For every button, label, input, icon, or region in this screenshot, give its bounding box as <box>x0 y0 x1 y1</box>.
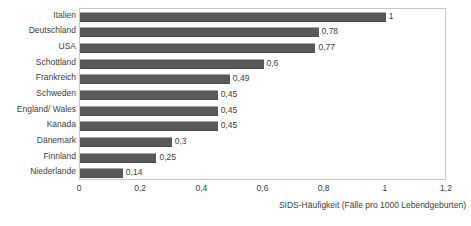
category-label: Finnland <box>0 151 76 161</box>
bar <box>80 59 264 69</box>
bar-value-label: 0,3 <box>172 136 187 147</box>
bar-value-label: 1 <box>386 11 394 22</box>
bar-row: 0,45 <box>80 121 447 131</box>
plot-area: 10,780,770,60,490,450,450,450,30,250,14 <box>79 8 446 180</box>
bar <box>80 106 218 116</box>
bar-row: 0,78 <box>80 27 447 37</box>
bar-value-label: 0,45 <box>218 89 238 100</box>
category-label: USA <box>0 41 76 51</box>
bar <box>80 74 230 84</box>
category-label: Dänemark <box>0 135 76 145</box>
bar <box>80 168 123 178</box>
bar-row: 0,3 <box>80 137 447 147</box>
x-tick-label: 0,6 <box>257 183 269 193</box>
category-label: Schweden <box>0 88 76 98</box>
category-label: England/ Wales <box>0 104 76 114</box>
category-label: Kanada <box>0 119 76 129</box>
bar-chart: ItalienDeutschlandUSASchottlandFrankreic… <box>0 0 471 226</box>
bar-row: 0,77 <box>80 43 447 53</box>
bar <box>80 27 319 37</box>
category-label: Deutschland <box>0 25 76 35</box>
bar-row: 0,6 <box>80 59 447 69</box>
bar-value-label: 0,45 <box>218 120 238 131</box>
bar-row: 0,49 <box>80 74 447 84</box>
bar-value-label: 0,77 <box>315 42 335 53</box>
x-axis-title: SIDS-Häufigkeit (Fälle pro 1000 Lebendge… <box>0 200 466 211</box>
bar <box>80 90 218 100</box>
bar <box>80 137 172 147</box>
bar <box>80 12 386 22</box>
bar <box>80 153 156 163</box>
x-tick-label: 1,2 <box>440 183 452 193</box>
bar-row: 0,14 <box>80 168 447 178</box>
bar-row: 0,45 <box>80 106 447 116</box>
x-tick-label: 0,4 <box>195 183 207 193</box>
bar-value-label: 0,45 <box>218 105 238 116</box>
bar-row: 0,25 <box>80 153 447 163</box>
bar <box>80 121 218 131</box>
x-tick-label: 0 <box>77 183 82 193</box>
bar-value-label: 0,25 <box>156 152 176 163</box>
category-axis: ItalienDeutschlandUSASchottlandFrankreic… <box>0 8 76 180</box>
category-label: Frankreich <box>0 72 76 82</box>
x-tick-label: 1 <box>382 183 387 193</box>
x-axis: 00,20,40,60,811,2 <box>79 181 446 197</box>
bar <box>80 43 315 53</box>
category-label: Niederlande <box>0 166 76 176</box>
bar-value-label: 0,49 <box>230 73 250 84</box>
bar-value-label: 0,6 <box>264 58 279 69</box>
category-label: Italien <box>0 10 76 20</box>
category-label: Schottland <box>0 57 76 67</box>
x-tick-label: 0,8 <box>318 183 330 193</box>
bar-value-label: 0,14 <box>123 167 143 178</box>
bar-value-label: 0,78 <box>319 26 339 37</box>
x-tick-label: 0,2 <box>134 183 146 193</box>
bar-row: 1 <box>80 12 447 22</box>
bar-row: 0,45 <box>80 90 447 100</box>
